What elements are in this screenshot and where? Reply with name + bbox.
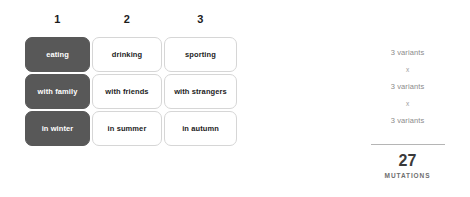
matrix-cell-r1c2[interactable]: drinking (92, 37, 162, 72)
variant-count-2: 3 variants (355, 82, 460, 92)
multiply-operator-1: x (355, 65, 460, 75)
matrix-cell-r3c1[interactable]: in winter (25, 111, 90, 146)
page-root: 1 2 3 eating drinking sporting with fami… (0, 0, 470, 197)
matrix-cell-r3c3[interactable]: in autumn (164, 111, 237, 146)
matrix-row: in winter in summer in autumn (25, 111, 235, 146)
matrix-cell-r2c1[interactable]: with family (25, 74, 90, 109)
variant-count-3: 3 variants (355, 116, 460, 126)
matrix-row: with family with friends with strangers (25, 74, 235, 109)
total-mutations-label: MUTATIONS (355, 171, 460, 180)
column-header-3: 3 (164, 12, 237, 26)
column-header-1: 1 (25, 12, 90, 26)
column-header-2: 2 (92, 12, 162, 26)
matrix-cell-r2c2[interactable]: with friends (92, 74, 162, 109)
matrix-cell-r1c1[interactable]: eating (25, 37, 90, 72)
matrix-cell-r2c3[interactable]: with strangers (164, 74, 237, 109)
variant-count-1: 3 variants (355, 48, 460, 58)
matrix-column-headers: 1 2 3 (25, 12, 235, 32)
matrix-body: eating drinking sporting with family wit… (25, 37, 235, 146)
matrix-cell-r3c2[interactable]: in summer (92, 111, 162, 146)
variant-calculation-panel: 3 variants x 3 variants x 3 variants 27 … (355, 48, 460, 180)
morphology-matrix: 1 2 3 eating drinking sporting with fami… (25, 12, 235, 146)
total-mutations-number: 27 (355, 152, 460, 169)
matrix-cell-r1c3[interactable]: sporting (164, 37, 237, 72)
sum-divider (371, 144, 445, 145)
multiply-operator-2: x (355, 99, 460, 109)
matrix-row: eating drinking sporting (25, 37, 235, 72)
